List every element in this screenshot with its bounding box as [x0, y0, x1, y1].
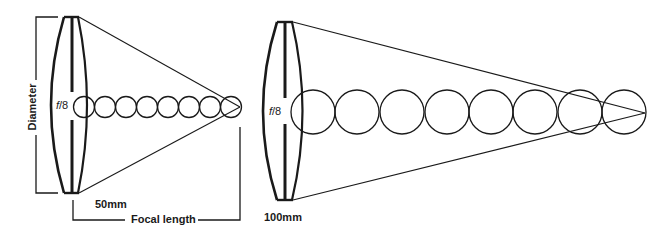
right-fstop-label: f/8	[269, 105, 281, 117]
fstop-value: /8	[59, 99, 68, 111]
fstop-value: /8	[272, 105, 281, 117]
left-light-cone	[79, 17, 240, 193]
right-focal-value-label: 100mm	[264, 211, 302, 223]
diameter-bracket	[36, 17, 58, 193]
focal-length-label: Focal length	[131, 213, 196, 225]
left-airy-circles	[74, 97, 242, 118]
diameter-label: Diameter	[26, 77, 38, 137]
left-fstop-label: f/8	[56, 99, 68, 111]
left-focal-value-label: 50mm	[95, 198, 127, 210]
right-airy-circles	[291, 90, 646, 134]
